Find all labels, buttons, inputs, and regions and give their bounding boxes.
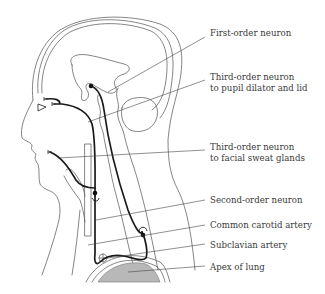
label-third-order-neuron-sweat: Third-order neuron to facial sweat gland… [210,142,305,163]
leader-common-carotid-artery [88,225,205,245]
label-apex-of-lung: Apex of lung [210,262,265,273]
third-order-neuron-eye-path [46,99,95,196]
label-subclavian-artery: Subclavian artery [210,240,287,251]
label-second-order-neuron: Second-order neuron [210,195,303,206]
ciliospinal-center-body [141,233,146,238]
hypothalamus-neuron-body [89,84,94,89]
superior-cervical-ganglion [93,191,98,196]
label-third-order-neuron-pupil: Third-order neuron to pupil dilator and … [210,72,308,93]
synapse-ciliospinal [139,227,147,231]
vertebral-column-outline [117,88,158,270]
eye-icon [38,104,46,111]
common-carotid-artery-shape [85,144,91,236]
label-common-carotid-artery: Common carotid artery [210,220,312,231]
neck-structure-line [72,210,80,275]
first-order-neuron-path [91,86,142,233]
lung-apex [98,263,160,282]
brainstem-outline [98,95,134,268]
cerebellum-outline [121,97,157,131]
skull-inner [42,24,167,110]
leader-second-order-neuron [96,200,205,220]
leader-third-order-sweat [58,150,205,158]
leader-subclavian-artery [108,244,205,258]
face-outline [21,100,60,275]
leader-third-order-pupil [88,80,205,122]
label-first-order-neuron: First-order neuron [210,28,291,39]
head-profile-outline [32,17,195,270]
leader-first-order-neuron [108,37,205,92]
